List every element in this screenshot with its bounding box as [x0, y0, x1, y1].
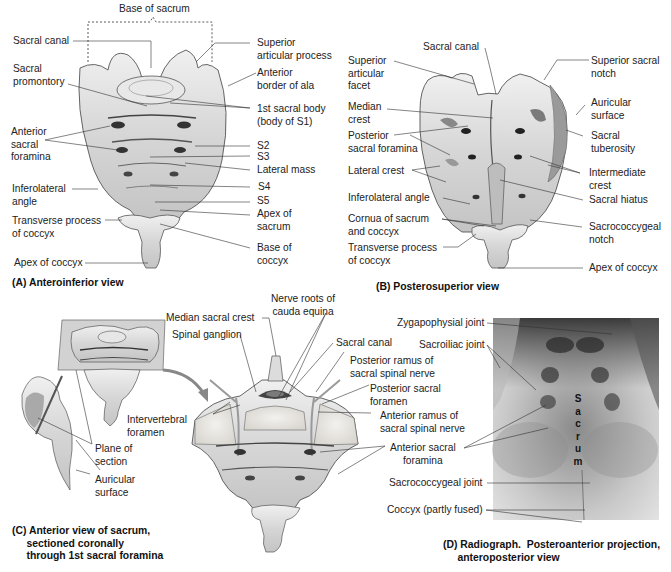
label-inferolateral-angle-a: Inferolateral angle [12, 183, 66, 208]
caption-panel-b: (B) Posterosuperior view [376, 281, 499, 294]
label-lateral-mass: Lateral mass [257, 164, 315, 177]
label-superior-articular-process: Superior articular process [257, 37, 332, 62]
label-sacral-canal-c: Sacral canal [336, 337, 392, 350]
label-apex-of-coccyx-a: Apex of coccyx [14, 257, 83, 270]
label-anterior-sacral-foramina-a: Anterior sacral foramina [11, 126, 51, 164]
label-median-crest: Median crest [348, 101, 381, 126]
label-sacral-promontory: Sacral promontory [13, 63, 65, 88]
overlay-sacrum-text: S a c r u m [573, 393, 583, 468]
overlay-letter: c [573, 418, 583, 431]
label-posterior-sacral-foramen: Posterior sacral foramen [370, 383, 441, 408]
label-sacral-canal-a: Sacral canal [13, 35, 69, 48]
label-inferolateral-angle-b: Inferolateral angle [348, 192, 430, 205]
label-cornua: Cornua of sacrum and coccyx [348, 213, 429, 238]
overlay-letter: S [573, 393, 583, 406]
label-intervertebral-foramen: Intervertebral foramen [127, 414, 187, 439]
label-sacral-hiatus: Sacral hiatus [589, 194, 648, 207]
label-lateral-crest: Lateral crest [348, 165, 404, 178]
label-superior-sacral-notch: Superior sacral notch [591, 55, 660, 80]
label-sacrococcygeal-joint: Sacrococcygeal joint [389, 477, 482, 490]
overlay-letter: u [573, 443, 583, 456]
label-posterior-ramus: Posterior ramus of sacral spinal nerve [350, 355, 435, 380]
label-s4: S4 [258, 181, 270, 194]
overlay-letter: m [573, 456, 583, 469]
label-apex-of-sacrum: Apex of sacrum [257, 208, 292, 233]
label-anterior-sacral-foramina-c: Anterior sacral foramina [390, 442, 456, 467]
label-nerve-roots: Nerve roots of cauda equina [271, 293, 335, 318]
label-apex-of-coccyx-b: Apex of coccyx [589, 262, 658, 275]
label-s3: S3 [257, 151, 269, 164]
label-first-sacral-body: 1st sacral body (body of S1) [257, 103, 326, 128]
label-sacroiliac-joint: Sacroiliac joint [419, 339, 485, 352]
caption-panel-d: (D) Radiograph. Posteroanterior projecti… [443, 539, 660, 564]
label-sacral-tuberosity: Sacral tuberosity [591, 130, 635, 155]
label-posterior-sacral-foramina: Posterior sacral foramina [348, 130, 418, 155]
label-plane-of-section: Plane of section [95, 443, 132, 468]
label-coccyx-partly-fused: Coccyx (partly fused) [387, 504, 483, 517]
label-spinal-ganglion: Spinal ganglion [172, 329, 242, 342]
label-transverse-process-a: Transverse process of coccyx [12, 215, 101, 240]
overlay-letter: a [573, 406, 583, 419]
caption-panel-a: (A) Anteroinferior view [12, 277, 124, 290]
label-auricular-surface-b: Auricular surface [591, 97, 631, 122]
panel-c-illustration [22, 313, 385, 552]
label-sacral-canal-b: Sacral canal [423, 41, 479, 54]
overlay-letter: r [573, 431, 583, 444]
label-s5: S5 [257, 195, 269, 208]
label-base-of-coccyx: Base of coccyx [257, 242, 292, 267]
label-base-of-sacrum: Base of sacrum [119, 3, 190, 16]
panel-d-radiograph [464, 318, 659, 522]
label-sacrococcygeal-notch: Sacrococcygeal notch [589, 221, 661, 246]
label-zygapophysial-joint: Zygapophysial joint [397, 317, 484, 330]
label-auricular-surface-c: Auricular surface [95, 474, 135, 499]
label-superior-articular-facet: Superior articular facet [348, 55, 387, 93]
label-intermediate-crest: Intermediate crest [589, 167, 646, 192]
caption-panel-c: (C) Anterior view of sacrum, sectioned c… [12, 525, 163, 563]
label-anterior-ramus: Anterior ramus of sacral spinal nerve [380, 410, 465, 435]
label-transverse-process-b: Transverse process of coccyx [348, 242, 437, 267]
label-anterior-border-of-ala: Anterior border of ala [257, 67, 314, 92]
label-median-sacral-crest: Median sacral crest [166, 312, 254, 325]
